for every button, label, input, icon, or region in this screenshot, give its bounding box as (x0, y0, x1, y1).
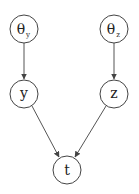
node-theta-y-subscript: y (25, 31, 30, 39)
edge-z-to-t (75, 106, 106, 157)
node-z: z (100, 80, 128, 108)
node-t: t (53, 156, 81, 184)
node-theta-y-label: θ (17, 21, 25, 37)
node-y: y (10, 80, 38, 108)
node-theta-z-subscript: z (116, 31, 120, 39)
node-theta-z: θ z (100, 15, 128, 43)
node-y-label: y (19, 85, 28, 101)
edge-y-to-t (32, 106, 59, 157)
bayesian-network-diagram: θ y θ z y z t (0, 0, 139, 194)
node-theta-z-label: θ (107, 21, 115, 37)
node-t-label: t (64, 162, 70, 178)
node-z-label: z (110, 85, 117, 101)
node-theta-y: θ y (10, 15, 38, 43)
